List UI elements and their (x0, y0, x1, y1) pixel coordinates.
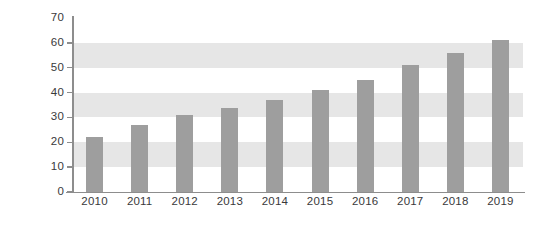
y-axis-tick-label: 50 (18, 62, 64, 74)
bar-series (72, 18, 523, 192)
x-axis-tick-label: 2016 (343, 196, 388, 208)
bar (176, 115, 193, 192)
bar (312, 90, 329, 192)
bar (221, 108, 238, 193)
x-axis-tick-label: 2015 (298, 196, 343, 208)
y-axis-tick-labels: 010203040506070 (8, 0, 64, 228)
x-axis-tick-label: 2019 (478, 196, 523, 208)
x-axis-tick-label: 2017 (388, 196, 433, 208)
bar (131, 125, 148, 192)
y-axis-tick-label: 30 (18, 111, 64, 123)
bar (266, 100, 283, 192)
bar (357, 80, 374, 192)
x-axis-tick-labels: 2010201120122013201420152016201720182019 (72, 196, 523, 216)
x-axis-tick-label: 2013 (207, 196, 252, 208)
bar (492, 40, 509, 192)
y-axis-tick-label: 40 (18, 87, 64, 99)
bar (447, 53, 464, 192)
x-axis-tick-label: 2011 (117, 196, 162, 208)
x-axis-tick-label: 2014 (252, 196, 297, 208)
bar (86, 137, 103, 192)
x-axis-tick-label: 2012 (162, 196, 207, 208)
x-axis-tick-label: 2010 (72, 196, 117, 208)
y-axis-tick-label: 60 (18, 37, 64, 49)
bar-chart: 010203040506070 201020112012201320142015… (0, 0, 537, 228)
y-axis-tick-label: 20 (18, 136, 64, 148)
y-axis-tick-label: 10 (18, 161, 64, 173)
x-axis-tick-label: 2018 (433, 196, 478, 208)
bar (402, 65, 419, 192)
y-axis-tick-label: 0 (18, 186, 64, 198)
y-axis-tick-label: 70 (18, 12, 64, 24)
